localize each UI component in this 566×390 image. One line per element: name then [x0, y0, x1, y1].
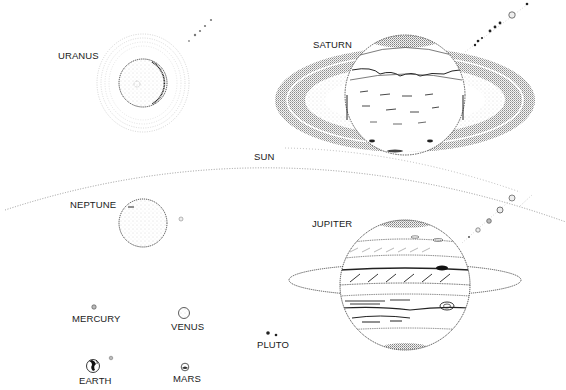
neptune-moon — [179, 217, 183, 221]
sun-limb-arc — [5, 168, 566, 222]
uranus-moons — [188, 19, 212, 42]
mars-label: MARS — [173, 374, 201, 384]
jupiter-moons — [462, 195, 515, 243]
pluto-moon — [275, 334, 278, 337]
earth-moon — [109, 356, 113, 360]
neptune-planet — [119, 199, 167, 247]
jupiter-label: JUPITER — [312, 219, 352, 229]
jupiter-planet — [289, 216, 521, 351]
pluto-label: PLUTO — [257, 340, 289, 350]
uranus-planet — [97, 34, 189, 132]
neptune-label: NEPTUNE — [70, 200, 116, 210]
saturn-label: SATURN — [313, 40, 352, 50]
earth-label: EARTH — [79, 376, 112, 386]
mars-planet — [181, 363, 189, 371]
uranus-label: URANUS — [58, 51, 99, 61]
earth-planet — [87, 360, 100, 373]
venus-planet — [179, 308, 190, 319]
sun-label: SUN — [254, 152, 274, 162]
saturn-moons — [465, 3, 528, 52]
mercury-planet — [92, 305, 96, 309]
solar-system-illustration: URANUS SATURN SUN NEPTUNE JUPITER MERCUR… — [0, 0, 566, 390]
mercury-label: MERCURY — [72, 314, 121, 324]
venus-label: VENUS — [171, 322, 204, 332]
pluto-planet — [266, 331, 270, 335]
